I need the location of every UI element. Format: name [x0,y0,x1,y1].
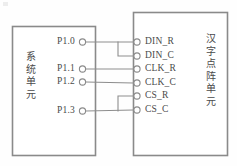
pin-dot-cs-c[interactable] [134,107,140,113]
pin-dot-cs-r[interactable] [134,93,140,99]
pin-dot-p10[interactable] [79,39,85,45]
pin-label-p13: P1.3 [28,106,75,116]
pin-label-cs-r: CS_R [145,91,169,101]
dot-matrix-unit-label: 汉字点阵单元 [204,33,214,108]
pin-dot-clk-r[interactable] [134,66,140,72]
pin-label-clk-r: CLK_R [145,64,176,74]
system-unit-label: 系统单元 [24,51,34,101]
pin-label-p10: P1.0 [28,37,75,47]
pin-dot-p12[interactable] [79,79,85,85]
pin-label-cs-c: CS_C [145,105,169,115]
pin-label-p12: P1.2 [28,77,75,87]
pin-label-p11: P1.1 [28,64,75,74]
pin-dot-p13[interactable] [79,108,85,114]
pin-label-clk-c: CLK_C [145,78,176,88]
pin-dot-din-r[interactable] [134,39,140,45]
scan-artifact [3,2,8,6]
pin-dot-p11[interactable] [79,66,85,72]
pin-dot-din-c[interactable] [134,53,140,59]
pin-label-din-r: DIN_R [145,37,174,47]
pin-label-din-c: DIN_C [145,51,174,61]
circuit-block-diagram: 系统单元 汉字点阵单元 P1.0 P1.1 P1.2 P1.3 DIN_R DI… [0,0,237,166]
pin-dot-clk-c[interactable] [134,80,140,86]
